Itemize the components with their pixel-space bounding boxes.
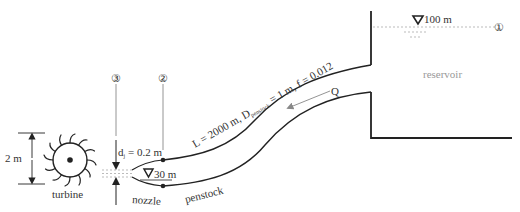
penstock-pipe [161, 65, 371, 188]
penstock-label: penstock [184, 184, 225, 205]
reservoir-label: reservoir [423, 68, 462, 80]
water-level-triangle-icon [413, 16, 423, 24]
station-3-marker: ③ [111, 72, 121, 84]
penstock-spec-label: L = 2000 m, Dpenstock = 1 m, f = 0.012 [190, 59, 335, 150]
nozzle-elevation-label: 30 m [154, 168, 177, 180]
jet-diameter-label: dj = 0.2 m [118, 146, 162, 159]
flow-label: Q [331, 85, 339, 97]
turbine-diameter-label: 2 m [5, 152, 22, 164]
nozzle-label: nozzle [132, 193, 162, 207]
turbine-label: turbine [52, 188, 83, 200]
reservoir-elevation-label: 100 m [424, 13, 452, 25]
hydro-diagram: 100 m ① reservoir 30 m nozzle dj = 0.2 m… [0, 0, 520, 212]
station-1-marker: ① [494, 21, 504, 33]
station-2-marker: ② [158, 72, 168, 84]
nozzle-elevation-triangle-icon [144, 169, 153, 177]
turbine-diameter-dimension [18, 133, 45, 184]
flow-arrow-icon [288, 91, 330, 108]
turbine-icon [44, 134, 96, 186]
